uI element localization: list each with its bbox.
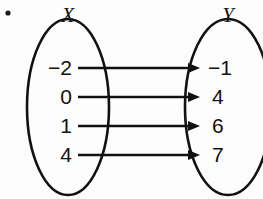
domain-element-3: 4 [60, 143, 72, 166]
mapping-arrow-head-1 [188, 92, 200, 102]
range-element-1: 4 [212, 85, 224, 108]
range-set-label: Y [222, 3, 236, 27]
range-element-3: 7 [212, 143, 224, 166]
domain-set-label: X [61, 3, 76, 27]
range-set-ellipse [185, 19, 263, 195]
domain-element-0: −2 [48, 56, 72, 79]
domain-element-2: 1 [60, 114, 72, 137]
diagram-canvas: X Y −2 −1 0 4 1 6 4 7 [0, 0, 263, 199]
mapping-arrow-head-0 [188, 63, 200, 73]
domain-element-1: 0 [60, 85, 72, 108]
mapping-arrow-head-2 [188, 121, 200, 131]
range-element-2: 6 [212, 114, 224, 137]
mapping-diagram-figure: X Y −2 −1 0 4 1 6 4 7 [0, 0, 263, 199]
bullet-dot-icon [5, 10, 10, 15]
range-element-0: −1 [208, 56, 232, 79]
